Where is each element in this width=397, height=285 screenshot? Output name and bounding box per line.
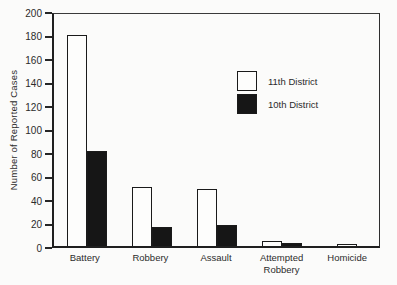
x-category-label: Attempted Robbery <box>249 252 315 276</box>
legend: 11th District10th District <box>237 71 318 117</box>
y-tick-label: 100 <box>25 125 42 136</box>
y-tick-label: 120 <box>25 102 42 113</box>
bar <box>282 243 302 246</box>
y-tick-mark <box>45 59 52 61</box>
y-tick-mark <box>45 224 52 226</box>
bar-group <box>314 14 379 246</box>
y-tick: 20 <box>31 219 52 231</box>
y-tick-label: 140 <box>25 78 42 89</box>
legend-label: 10th District <box>268 99 318 110</box>
y-tick-label: 180 <box>25 31 42 42</box>
y-tick: 140 <box>25 78 52 90</box>
y-tick-mark <box>45 130 52 132</box>
y-tick-mark <box>45 106 52 108</box>
bar <box>152 227 172 246</box>
y-tick-mark <box>45 12 52 14</box>
y-tick-label: 60 <box>31 172 42 183</box>
x-axis-labels: BatteryRobberyAssaultAttempted RobberyHo… <box>52 252 380 276</box>
y-tick-mark <box>45 83 52 85</box>
y-tick-label: 20 <box>31 219 42 230</box>
legend-swatch-icon <box>237 94 257 114</box>
bar <box>337 244 357 246</box>
y-tick-mark <box>45 247 52 249</box>
y-tick: 180 <box>25 31 52 43</box>
y-tick: 40 <box>31 195 52 207</box>
y-tick-mark <box>45 153 52 155</box>
y-tick-label: 160 <box>25 55 42 66</box>
legend-label: 11th District <box>268 76 317 87</box>
y-tick-mark <box>45 200 52 202</box>
y-tick-label: 0 <box>36 243 42 254</box>
x-category-label: Assault <box>183 252 249 276</box>
bar <box>132 187 152 246</box>
y-tick-label: 40 <box>31 196 42 207</box>
y-tick: 160 <box>25 54 52 66</box>
bar <box>197 189 217 246</box>
bar <box>262 241 282 246</box>
y-tick: 120 <box>25 101 52 113</box>
x-category-label: Homicide <box>314 252 380 276</box>
y-tick: 0 <box>36 242 52 254</box>
y-tick: 200 <box>25 7 52 19</box>
legend-entry: 10th District <box>237 94 318 114</box>
y-tick-mark <box>45 36 52 38</box>
bar-group <box>54 14 119 246</box>
bar <box>87 151 107 246</box>
bar <box>217 225 237 246</box>
x-category-label: Robbery <box>118 252 184 276</box>
plot-area <box>52 13 380 248</box>
y-axis: 020406080100120140160180200 <box>0 13 52 248</box>
bar-group <box>249 14 314 246</box>
bar-group <box>184 14 249 246</box>
legend-swatch-icon <box>237 71 257 91</box>
y-tick-label: 200 <box>25 8 42 19</box>
y-tick-mark <box>45 177 52 179</box>
legend-entry: 11th District <box>237 71 318 91</box>
y-tick: 80 <box>31 148 52 160</box>
y-tick: 60 <box>31 172 52 184</box>
y-tick-label: 80 <box>31 149 42 160</box>
bar-chart-figure: Number of Reported Cases 020406080100120… <box>0 0 397 285</box>
bar <box>67 35 87 246</box>
bar-group <box>119 14 184 246</box>
y-tick: 100 <box>25 125 52 137</box>
x-category-label: Battery <box>52 252 118 276</box>
